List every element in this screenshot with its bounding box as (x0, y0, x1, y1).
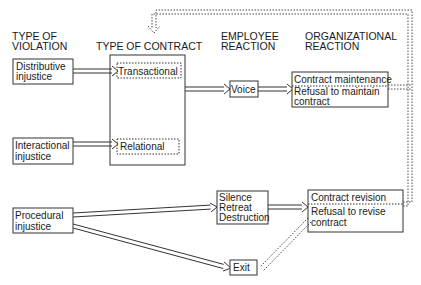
box-transactional: Transactional (117, 63, 181, 78)
box-maintenance: Contract maintenance Refusal to maintain… (292, 72, 392, 107)
revision-label: Contract revision (311, 192, 386, 203)
interactional-line2: injustice (15, 151, 52, 162)
header-contract: TYPE OF CONTRACT (96, 40, 203, 52)
procedural-line2: injustice (15, 221, 52, 232)
box-distributive: Distributive injustice (13, 59, 73, 84)
refusal-revise-line2: contract (311, 217, 347, 228)
box-voice: Voice (230, 81, 258, 97)
voice-label: Voice (231, 84, 256, 95)
header-organizational-2: REACTION (305, 40, 359, 52)
procedural-line1: Procedural (15, 210, 63, 221)
arrow-procedural-silence (73, 203, 217, 217)
header-employee-2: REACTION (221, 40, 275, 52)
arrow-voice-maintain (258, 84, 293, 94)
exit-label: Exit (233, 262, 250, 273)
arrow-silence-revision (268, 202, 308, 212)
refusal-revise-line1: Refusal to revise (311, 206, 386, 217)
distributive-line2: injustice (16, 71, 53, 82)
refusal-maintain-line2: contract (294, 96, 330, 107)
destruction-label: Destruction (219, 212, 270, 223)
box-interactional: Interactional injustice (13, 138, 73, 164)
box-revision: Contract revision Refusal to revise cont… (308, 190, 403, 232)
diagram-canvas: TYPE OF VIOLATION TYPE OF CONTRACT EMPLO… (0, 0, 421, 285)
box-procedural: Procedural injustice (13, 208, 73, 233)
header-violation-2: VIOLATION (12, 40, 67, 52)
diagram-svg: TYPE OF VIOLATION TYPE OF CONTRACT EMPLO… (0, 0, 421, 285)
relational-label: Relational (120, 141, 164, 152)
interactional-line1: Interactional (15, 140, 69, 151)
transactional-label: Transactional (118, 66, 178, 77)
box-silence: Silence Retreat Destruction (217, 191, 270, 224)
box-exit: Exit (230, 260, 257, 275)
dotted-refusal-exit (260, 218, 311, 271)
arrow-procedural-exit (73, 224, 231, 271)
arrow-contract-voice (185, 84, 230, 94)
maintenance-label: Contract maintenance (294, 74, 392, 85)
